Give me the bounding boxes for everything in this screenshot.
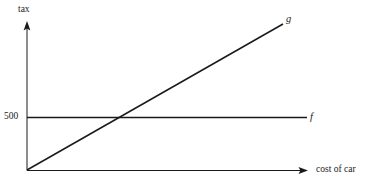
curve-g-line xyxy=(27,24,283,170)
y-axis-title: tax xyxy=(18,5,30,15)
y-axis xyxy=(24,21,31,171)
y-axis-tick-label-500: 500 xyxy=(4,112,18,122)
x-axis xyxy=(27,167,308,174)
graph-figure: tax cost of car 500 f g xyxy=(0,0,367,188)
graph-canvas xyxy=(0,0,367,188)
curve-g-label: g xyxy=(286,14,291,25)
x-axis-title: cost of car xyxy=(316,165,356,175)
curve-f-label: f xyxy=(310,112,313,123)
